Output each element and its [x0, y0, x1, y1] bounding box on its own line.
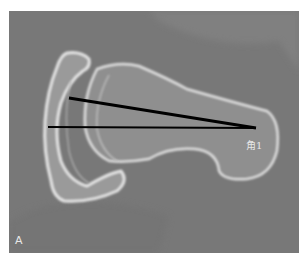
angle-label: 角1 [246, 137, 262, 152]
ct-scan-graphic [9, 11, 299, 253]
measurement-line-horizontal [48, 127, 256, 128]
panel-label: A [15, 234, 23, 247]
ct-scan-image: 角1 A [9, 11, 299, 253]
